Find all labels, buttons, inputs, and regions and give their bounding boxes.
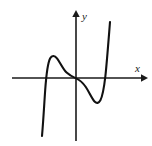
graph-figure: y x — [0, 0, 152, 146]
x-axis-label: x — [134, 62, 140, 74]
graph-canvas: y x — [0, 0, 152, 146]
y-axis-arrowhead-icon — [72, 10, 79, 17]
y-axis-label: y — [81, 10, 87, 22]
x-axis-arrowhead-icon — [141, 74, 148, 82]
